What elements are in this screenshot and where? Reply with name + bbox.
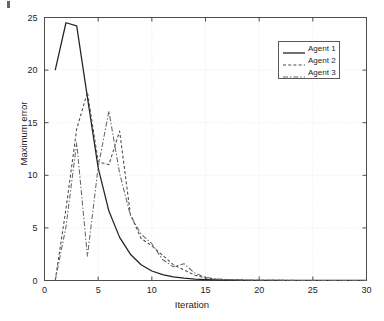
figure-canvas: 051015202530 0510152025 Iteration Maximu… bbox=[0, 0, 384, 321]
y-axis-label: Maximum error bbox=[18, 64, 29, 204]
legend-label: Agent 2 bbox=[308, 56, 336, 66]
series-line-agent-2 bbox=[55, 92, 366, 280]
legend-label: Agent 3 bbox=[308, 68, 336, 78]
legend-item-agent-1[interactable]: Agent 1 bbox=[279, 43, 339, 54]
x-tick-label: 30 bbox=[361, 285, 371, 295]
x-tick-label: 20 bbox=[254, 285, 264, 295]
legend-label: Agent 1 bbox=[308, 44, 336, 54]
x-tick-label: 25 bbox=[308, 285, 318, 295]
chart-legend[interactable]: Agent 1Agent 2Agent 3 bbox=[278, 41, 340, 79]
y-tick-label: 0 bbox=[0, 276, 38, 286]
x-axis-label: Iteration bbox=[0, 299, 384, 310]
x-tick-label: 10 bbox=[147, 285, 157, 295]
x-tick-label: 5 bbox=[96, 285, 101, 295]
x-tick-label: 15 bbox=[200, 285, 210, 295]
legend-line-sample-dashdot bbox=[283, 68, 305, 78]
y-tick-label: 5 bbox=[0, 223, 38, 233]
legend-line-sample-dashed bbox=[283, 56, 305, 66]
legend-item-agent-3[interactable]: Agent 3 bbox=[279, 67, 339, 78]
y-tick-label: 25 bbox=[0, 13, 38, 23]
legend-line-sample-solid bbox=[283, 44, 305, 54]
legend-item-agent-2[interactable]: Agent 2 bbox=[279, 55, 339, 66]
x-tick-label: 0 bbox=[42, 285, 47, 295]
series-line-agent-3 bbox=[55, 111, 366, 280]
